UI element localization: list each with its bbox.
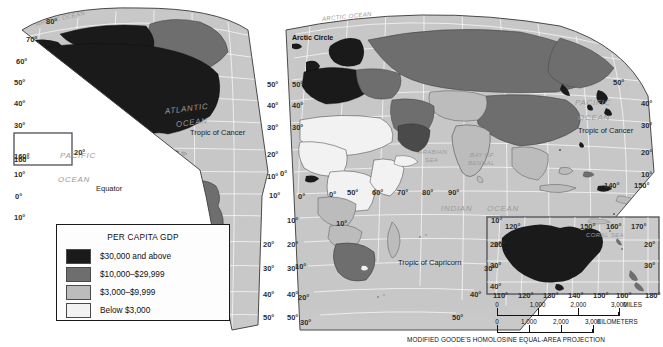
reference-line-label: Tropic of Cancer [578, 126, 633, 135]
legend-row: $3,000–$9,999 [66, 283, 171, 301]
legend-title: PER CAPITA GDP [57, 232, 229, 242]
latitude-label: 20° [267, 150, 278, 159]
projection-note: MODIFIED GOODE'S HOMOLOSINE EQUAL-AREA P… [407, 336, 605, 343]
latitude-label: 40° [267, 101, 278, 110]
australia-inset-graticule-label: 30° [644, 261, 655, 270]
scale-tick-label: 0 [495, 301, 499, 308]
legend-swatch [66, 285, 91, 300]
longitude-label: 0° [298, 192, 305, 201]
australia-inset-graticule-label: 150° [580, 222, 596, 231]
legend-label: $10,000–$29,999 [100, 269, 165, 279]
australia-inset-graticule-label: 110° [493, 291, 508, 300]
australia-inset-graticule-label: 140° [568, 291, 584, 300]
australia-inset-graticule-label: 20° [490, 240, 501, 249]
latitude-label: 20° [287, 240, 298, 249]
latitude-label: 30° [263, 264, 274, 273]
scale-bar-kilometers: 01,0002,0003,000KILOMETERS [487, 320, 663, 337]
latitude-label: 70° [26, 35, 37, 44]
ocean-label: PACIFIC [575, 98, 611, 107]
latitude-label: 0° [15, 192, 22, 201]
scale-unit-label: MILES [623, 301, 642, 308]
latitude-label: 0° [329, 190, 336, 199]
ocean-label: OCEAN [578, 113, 610, 122]
latitude-label: 80° [46, 17, 57, 26]
latitude-label: 30° [292, 123, 303, 132]
latitude-label: 40° [263, 290, 274, 299]
australia-inset-graticule-label: 40° [490, 282, 501, 291]
scale-bar-line [497, 312, 619, 316]
ocean-label: OCEAN [487, 204, 519, 213]
latitude-label: 20° [263, 240, 274, 249]
scale-tick-label: 2,000 [553, 318, 569, 325]
scale-bars: 01,0002,0003,000MILES 01,0002,0003,000KI… [487, 303, 663, 337]
latitude-label: 40° [292, 101, 303, 110]
latitude-label: 60° [16, 57, 27, 66]
latitude-label: 20° [298, 293, 309, 302]
ocean-label: ARABIAN [418, 149, 447, 155]
longitude-label: 70° [397, 188, 408, 197]
latitude-label: 30° [267, 123, 278, 132]
australia-inset-graticule-label: 150° [593, 291, 609, 300]
latitude-label: 40° [641, 99, 652, 108]
scale-tick-label: 2,000 [570, 301, 586, 308]
latitude-label: 10° [295, 262, 306, 271]
australia-inset-graticule-label: 160° [606, 222, 622, 231]
latitude-label: 30° [14, 121, 25, 130]
ocean-label: SEA [425, 157, 438, 163]
ocean-label: BENGAL [468, 160, 495, 166]
legend-swatch [66, 267, 91, 282]
reference-line-label: Equator [96, 184, 122, 193]
australia-inset-graticule-label: 170° [631, 222, 647, 231]
latitude-label: 40° [287, 290, 298, 299]
latitude-label: 20° [641, 148, 652, 157]
scale-tick [593, 325, 594, 333]
hawaii-inset-longitude: 160° [14, 152, 30, 161]
longitude-label: 60° [372, 188, 383, 197]
latitude-label: 50° [287, 313, 298, 322]
australia-inset-graticule-label: 30° [490, 261, 501, 270]
legend-row: Below $3,000 [66, 301, 171, 319]
scale-tick [497, 325, 498, 333]
world-map-figure: ARCTIC OCEANARCTIC OCEANATLANTICOCEANPAC… [0, 0, 663, 347]
latitude-label: 10° [287, 216, 298, 225]
legend-row: $30,000 and above [66, 247, 171, 265]
latitude-label: 20° [74, 148, 85, 157]
longitude-label: 50° [347, 188, 358, 197]
legend-swatch [66, 303, 91, 318]
latitude-label: 30° [300, 318, 311, 327]
scale-bar-line [497, 329, 593, 333]
ocean-label: OCEAN [58, 175, 90, 184]
australia-inset-graticule-label: 120° [518, 291, 534, 300]
latitude-label: 10° [14, 213, 25, 222]
longitude-label: 150° [634, 181, 650, 190]
scale-unit-label: KILOMETERS [597, 318, 638, 325]
longitude-label: 140° [604, 181, 620, 190]
legend-label: $3,000–$9,999 [100, 287, 155, 297]
scale-tick-label: 1,000 [530, 301, 546, 308]
legend-label: $30,000 and above [100, 251, 171, 261]
latitude-label: 50° [613, 78, 624, 87]
australia-inset-graticule-label: 120° [505, 222, 521, 231]
ocean-label: CORAL SEA [586, 232, 624, 238]
scale-tick [538, 308, 539, 316]
latitude-label: 50° [267, 80, 278, 89]
reference-line-label: Arctic Circle [292, 34, 333, 41]
scale-tick [578, 308, 579, 316]
latitude-label: 40° [470, 290, 481, 299]
ocean-label: INDIAN [441, 204, 472, 213]
legend-rows: $30,000 and above$10,000–$29,999$3,000–$… [66, 247, 171, 319]
latitude-label: 50° [263, 313, 274, 322]
latitude-label: 50° [14, 78, 25, 87]
australia-inset-graticule-label: 160° [616, 291, 632, 300]
latitude-label: 10° [491, 216, 502, 225]
longitude-label: 10° [269, 191, 280, 200]
australia-inset-graticule-label: 130° [543, 291, 559, 300]
latitude-label: 10° [641, 170, 652, 179]
longitude-label: 90° [448, 188, 459, 197]
scale-tick-label: 0 [495, 318, 499, 325]
reference-line-label: Tropic of Cancer [190, 128, 245, 137]
latitude-label: 10° [336, 219, 347, 228]
scale-tick [561, 325, 562, 333]
australia-inset-graticule-label: 180° [645, 291, 661, 300]
latitude-label: 30° [641, 121, 652, 130]
